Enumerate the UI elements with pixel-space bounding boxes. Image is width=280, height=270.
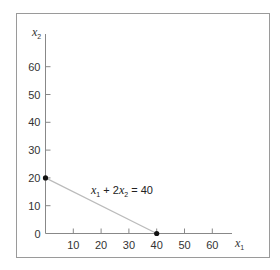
y-tick-label: 30 bbox=[28, 144, 40, 156]
equation-annotation: x1 + 2x2 = 40 bbox=[90, 183, 153, 198]
y-tick-label: 10 bbox=[28, 200, 40, 212]
intercept-point bbox=[154, 231, 159, 236]
chart-frame bbox=[17, 14, 270, 258]
x-tick-label: 10 bbox=[67, 239, 79, 251]
x-tick-label: 50 bbox=[178, 239, 190, 251]
eq-plus-2: + 2 bbox=[100, 184, 119, 196]
chart: 0102030405060 102030405060 x2 x1 x1 + 2x… bbox=[0, 0, 280, 270]
y-axis-label-sub: 2 bbox=[37, 33, 41, 40]
eq-equals-40: = 40 bbox=[128, 184, 153, 196]
x-tick-label: 20 bbox=[95, 239, 107, 251]
x-tick-label: 30 bbox=[123, 239, 135, 251]
y-tick-label: 20 bbox=[28, 172, 40, 184]
x-axis-label-sub: 1 bbox=[240, 244, 244, 251]
intercept-point bbox=[43, 175, 48, 180]
y-tick-label: 40 bbox=[28, 116, 40, 128]
x-tick-label: 60 bbox=[206, 239, 218, 251]
x-tick-label: 40 bbox=[151, 239, 163, 251]
y-tick-label: 50 bbox=[28, 89, 40, 101]
y-tick-label: 0 bbox=[34, 228, 40, 240]
y-tick-label: 60 bbox=[28, 61, 40, 73]
